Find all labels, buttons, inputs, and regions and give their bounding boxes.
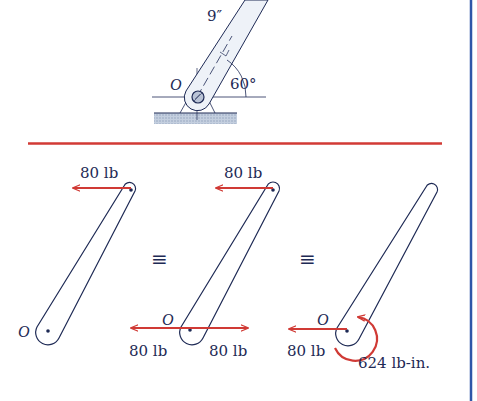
pivot-label: O: [317, 311, 329, 328]
left-force-label: 80 lb: [129, 342, 167, 360]
couple-label: 624 lb-in.: [358, 354, 430, 372]
link-bar: [36, 182, 136, 344]
force-couple-diagram: 9″ O 60° 80 lb O ≡ 80 lb O 80 lb 80 lb ≡…: [0, 0, 477, 401]
panel-original-force: 80 lb O: [18, 164, 136, 345]
pivot-point: [46, 329, 50, 333]
pivot-label-top: O: [170, 76, 182, 93]
angle-label: 60°: [230, 75, 257, 93]
force-label: 80 lb: [287, 342, 325, 360]
pivot-label: O: [18, 323, 30, 340]
length-label: 9″: [207, 7, 223, 25]
force-label: 80 lb: [80, 164, 118, 182]
equivalence-sign-1: ≡: [151, 247, 168, 271]
top-force-label: 80 lb: [224, 164, 262, 182]
equivalence-sign-2: ≡: [299, 247, 316, 271]
panel-force-couple: O 80 lb 624 lb-in.: [287, 183, 438, 372]
right-force-label: 80 lb: [209, 342, 247, 360]
pivot-label: O: [162, 311, 174, 328]
link-bar: [180, 182, 280, 345]
top-figure: 9″ O 60°: [152, 0, 268, 124]
ground-hatch: [154, 113, 237, 124]
link-bar: [336, 183, 438, 345]
